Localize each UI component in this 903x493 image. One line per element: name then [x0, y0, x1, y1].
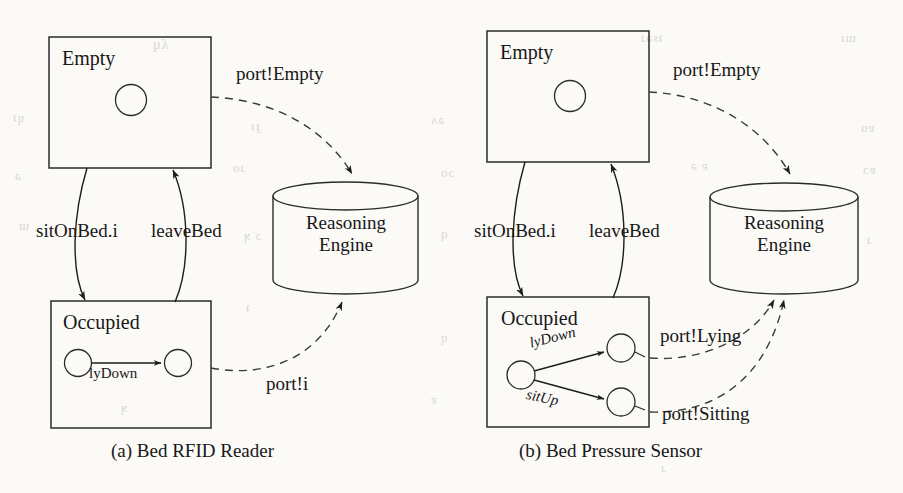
state-node-occupied-b-sitting	[607, 388, 635, 416]
inner-transition-label-lydown-a: lyDown	[89, 366, 137, 381]
message-label-port-empty-a: port!Empty	[236, 64, 324, 83]
component-label-line2-b: Engine	[757, 234, 811, 255]
state-label-empty-b: Empty	[500, 42, 553, 62]
message-label-port-empty-b: port!Empty	[673, 60, 761, 79]
component-label-line1-a: Reasoning	[306, 212, 386, 233]
state-node-occupied-a-1	[65, 350, 92, 377]
state-node-occupied-a-2	[165, 350, 192, 377]
node-stub-sitting-b	[635, 406, 645, 410]
message-arrow-port-empty-a	[211, 97, 352, 174]
message-label-port-lying-b: port!Lying	[660, 326, 741, 345]
state-node-empty-b	[555, 81, 586, 112]
caption-panel-b: (b) Bed Pressure Sensor	[519, 441, 702, 460]
node-stub-lying-b	[635, 352, 645, 357]
caption-panel-a: (a) Bed RFID Reader	[111, 441, 274, 460]
transition-label-sitonbed-a: sitOnBed.i	[36, 221, 118, 240]
component-label-reasoning-engine-b: Reasoning Engine	[728, 212, 840, 256]
state-label-occupied-a: Occupied	[63, 312, 140, 332]
message-arrow-port-empty-b	[649, 92, 790, 174]
message-label-port-sitting-b: port!Sitting	[662, 404, 750, 423]
inner-transition-arrow-lydown-b	[534, 352, 604, 371]
message-arrow-port-i-a	[211, 302, 342, 371]
state-label-empty-a: Empty	[62, 48, 115, 68]
transition-label-sitonbed-b: sitOnBed.i	[474, 221, 556, 240]
figure-container: ʎɥ ʇsǝɹ ɯı ɥʇ ɟı ǝʌ ɐu ǝ ɹo ɔo ɐ ǝ ɐɔ ɯ …	[0, 0, 903, 493]
component-label-line2-a: Engine	[319, 234, 373, 255]
component-label-reasoning-engine-a: Reasoning Engine	[290, 212, 402, 256]
component-label-line1-b: Reasoning	[744, 212, 824, 233]
state-node-empty-a	[116, 85, 147, 116]
message-label-port-i-a: port!i	[266, 374, 308, 393]
state-node-occupied-b-source	[507, 361, 535, 389]
transition-label-leavebed-b: leaveBed	[589, 221, 660, 240]
transition-label-leavebed-a: leaveBed	[151, 221, 222, 240]
message-arrow-port-sitting-b	[650, 300, 784, 412]
state-node-occupied-b-lying	[607, 334, 635, 362]
